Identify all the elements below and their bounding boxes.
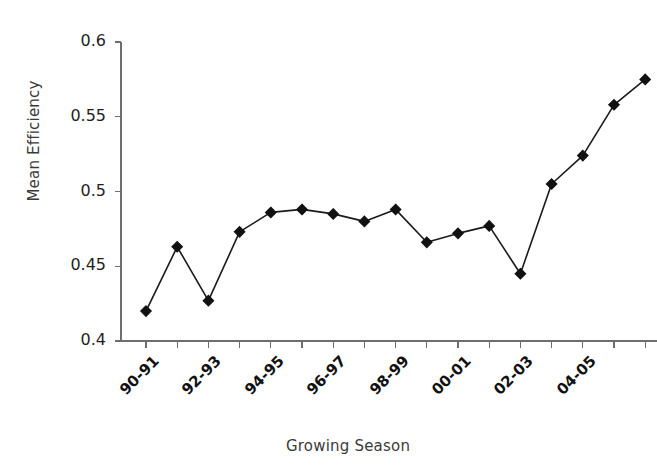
data-point xyxy=(141,306,151,316)
series-line xyxy=(146,79,645,311)
data-point xyxy=(203,295,213,305)
data-point-marker xyxy=(453,228,463,238)
data-point-marker xyxy=(328,209,338,219)
data-point-marker xyxy=(172,242,182,252)
data-point-marker xyxy=(515,269,525,279)
data-point-marker xyxy=(359,216,369,226)
data-point xyxy=(234,227,244,237)
plot-area xyxy=(0,0,657,476)
data-point-marker xyxy=(484,221,494,231)
data-point-marker xyxy=(234,227,244,237)
data-point-marker xyxy=(297,204,307,214)
data-point-marker xyxy=(203,295,213,305)
data-point-marker xyxy=(266,207,276,217)
axes-group xyxy=(115,42,657,348)
data-point xyxy=(515,269,525,279)
data-point xyxy=(453,228,463,238)
data-point xyxy=(484,221,494,231)
data-point xyxy=(266,207,276,217)
chart-figure: Mean Efficiency Growing Season 0.60.550.… xyxy=(0,0,657,476)
data-point xyxy=(328,209,338,219)
data-point-marker xyxy=(141,306,151,316)
data-point xyxy=(172,242,182,252)
data-point xyxy=(297,204,307,214)
data-point xyxy=(359,216,369,226)
data-series-group xyxy=(146,79,645,311)
